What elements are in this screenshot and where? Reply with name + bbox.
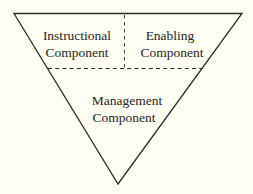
enabling-label-line2: Component xyxy=(141,45,204,60)
enabling-label-line1: Enabling xyxy=(146,28,195,43)
management-component-section: Management Component xyxy=(92,93,163,125)
enabling-component-section: Enabling Component xyxy=(141,28,204,60)
management-label-line2: Component xyxy=(93,110,156,125)
instructional-component-section: Instructional Component xyxy=(43,28,111,60)
instructional-label-line2: Component xyxy=(46,45,109,60)
management-label-line1: Management xyxy=(92,93,163,108)
component-triangle-diagram: Instructional Component Enabling Compone… xyxy=(0,0,253,194)
instructional-label-line1: Instructional xyxy=(43,28,111,43)
